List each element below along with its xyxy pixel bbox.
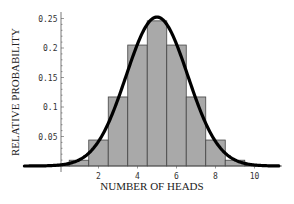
y-axis: 0.050.10.150.20.25 xyxy=(38,12,64,172)
x-tick-label: 8 xyxy=(213,172,218,181)
y-tick-label: 0.15 xyxy=(38,74,57,83)
x-axis: 246810 xyxy=(40,166,282,181)
bar-3 xyxy=(108,97,128,166)
histogram-bars xyxy=(50,21,265,166)
x-tick-label: 10 xyxy=(250,172,260,181)
y-tick-label: 0.2 xyxy=(43,44,58,53)
y-tick-label: 0.25 xyxy=(38,15,57,24)
y-tick-label: 0.1 xyxy=(43,103,58,112)
x-axis-title: NUMBER OF HEADS xyxy=(100,180,203,192)
bar-5 xyxy=(147,21,167,166)
binomial-histogram-chart: 0.050.10.150.20.25 246810 NUMBER OF HEAD… xyxy=(0,0,294,204)
y-axis-title: RELATIVE PROBABILITY xyxy=(9,28,21,156)
bar-7 xyxy=(186,97,206,166)
y-tick-label: 0.05 xyxy=(38,133,57,142)
